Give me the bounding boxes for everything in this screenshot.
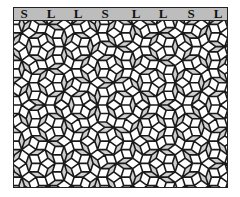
penrose-tiling-figure: SLLSLLSL xyxy=(13,7,228,188)
sequence-header-strip: SLLSLLSL xyxy=(14,8,227,21)
sequence-letter: L xyxy=(159,7,168,20)
sequence-letter: L xyxy=(214,7,223,20)
sequence-letter: L xyxy=(132,7,141,20)
sequence-letter: L xyxy=(47,7,56,20)
sequence-letter: S xyxy=(20,7,27,20)
sequence-letter: L xyxy=(74,7,83,20)
sequence-letter: S xyxy=(101,7,108,20)
sequence-letter: S xyxy=(187,7,194,20)
penrose-tiling-canvas xyxy=(14,21,228,188)
